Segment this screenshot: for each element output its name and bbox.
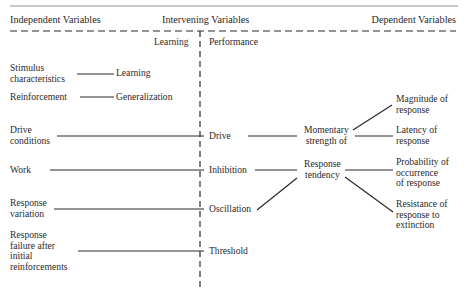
performance-variable-oscillation: Oscillation [209, 204, 251, 215]
independent-variable-response-variation: Response variation [10, 198, 47, 219]
independent-variable-drive-conditions: Drive conditions [10, 125, 50, 146]
performance-variable-drive: Drive [209, 131, 231, 142]
independent-variable-stimulus: Stimulus characteristics [10, 63, 65, 84]
independent-variable-reinforcement: Reinforcement [10, 92, 67, 103]
dependent-variable-latency: Latency of response [396, 125, 437, 146]
header-intervening-variables: Intervening Variables [162, 14, 249, 26]
subheader-learning: Learning [154, 37, 189, 48]
dependent-variable-magnitude: Magnitude of response [396, 94, 448, 115]
momentary-strength-node: Momentary strength of [304, 125, 349, 146]
performance-variable-threshold: Threshold [209, 246, 248, 257]
header-dependent-variables: Dependent Variables [372, 14, 456, 26]
learning-variable-generalization: Generalization [116, 92, 172, 103]
performance-variable-inhibition: Inhibition [209, 165, 247, 176]
response-tendency-node: Response tendency [304, 159, 341, 180]
dependent-variable-resistance: Resistance of response to extinction [396, 199, 447, 231]
learning-variable-learning: Learning [116, 68, 151, 79]
dependent-variable-probability: Probability of occurrence of response [396, 157, 449, 189]
independent-variable-response-failure: Response failure after initial reinforce… [10, 230, 68, 272]
subheader-performance: Performance [209, 37, 258, 48]
independent-variable-work: Work [10, 165, 31, 176]
header-independent-variables: Independent Variables [10, 14, 101, 26]
